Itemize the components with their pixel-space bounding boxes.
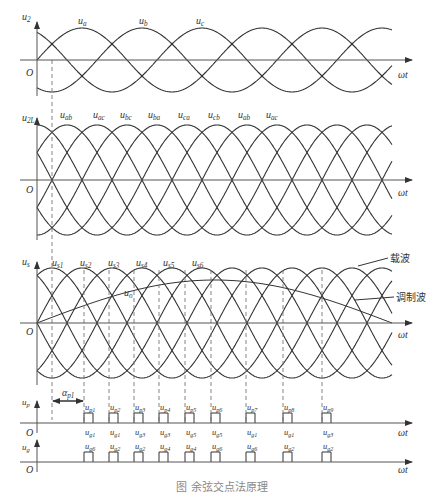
x-label-omega-t-5: ωt (398, 464, 408, 475)
pulse-up (109, 413, 118, 423)
gate-label-row2: ug2 (284, 441, 294, 452)
labels-layer: u2Oωtuaubucu2LOωtuabuacubcubaucaucbuabua… (22, 11, 426, 475)
gate-label-row1: ug1 (110, 427, 120, 438)
pulse-up (211, 413, 220, 423)
gate-label-row1: ug5 (212, 427, 222, 438)
pulse-label-p2: up2 (110, 402, 120, 413)
gate-label-row2: ug2 (135, 441, 145, 452)
pulse-up (84, 413, 93, 423)
gate-label-row1: ug3 (323, 427, 333, 438)
figure-caption: 图 余弦交点法原理 (0, 478, 444, 494)
origin-label-5: O (26, 464, 33, 475)
control-label-uo: uo (124, 287, 133, 300)
pulse-label-p7: up7 (247, 402, 258, 413)
gate-label-row1: ug1 (284, 427, 294, 438)
gate-label-row2: ug6 (85, 441, 96, 452)
pulse-up (185, 413, 194, 423)
pulse-ug (109, 452, 118, 462)
wave-label-c: uc (196, 15, 205, 28)
carrier-leader (358, 258, 388, 266)
pulse-ug (134, 452, 143, 462)
gate-label-row1: ug5 (186, 427, 196, 438)
line-wave-label-0: uab (60, 109, 73, 122)
x-label-omega-t-4: ωt (398, 427, 408, 438)
x-label-omega-t-3: ωt (398, 329, 408, 340)
pulse-ug (84, 452, 93, 462)
gate-label-row2: ug4 (160, 441, 170, 452)
carrier-annotation: 载波 (390, 252, 410, 264)
control-voltage-curve (37, 280, 392, 323)
line-wave-label-6: uab (238, 109, 251, 122)
pulse-label-p3: up3 (135, 402, 145, 413)
sync-wave-label-s5: us5 (163, 257, 175, 270)
pulse-ug (211, 452, 220, 462)
line-wave-label-4: uca (178, 109, 190, 122)
pulse-up (322, 413, 331, 423)
modulating-leader (355, 297, 394, 300)
pulse-label-p6: up6 (212, 402, 223, 413)
origin-label-4: O (26, 427, 33, 438)
gate-label-row1: ug1 (85, 427, 95, 438)
gate-label-row2: ug2 (110, 441, 120, 452)
pulse-ug (159, 452, 168, 462)
pulse-ug (283, 452, 292, 462)
line-wave-label-7: uac (266, 109, 279, 122)
pulse-up (246, 413, 255, 423)
line-wave-label-5: ucb (208, 109, 220, 122)
modulating-annotation: 调制波 (396, 291, 426, 303)
gate-label-row2: ug6 (212, 441, 223, 452)
pulse-ug (322, 452, 331, 462)
gate-label-row2: ug4 (186, 441, 196, 452)
pulse-up (134, 413, 143, 423)
curves-layer (37, 28, 394, 462)
pulse-ug (185, 452, 194, 462)
y-label-us: us (22, 256, 30, 269)
wave-label-b: ub (139, 15, 148, 28)
line-wave-label-3: uba (148, 109, 161, 122)
wave-label-a: ua (78, 15, 87, 28)
pulse-label-p9: up9 (323, 402, 333, 413)
y-label-u2: u2 (22, 11, 31, 24)
origin-label-2: O (26, 184, 33, 195)
pulse-ug (246, 452, 255, 462)
x-label-omega-t: ωt (398, 69, 408, 80)
y-label-up: up (22, 397, 31, 408)
gate-label-row2: ug6 (247, 441, 258, 452)
sync-wave-label-s6: us6 (192, 257, 204, 270)
line-wave-label-1: uac (93, 109, 106, 122)
pulse-label-p1: up1 (85, 402, 95, 413)
gate-label-row2: ug2 (323, 441, 333, 452)
pulse-up (283, 413, 292, 423)
pulse-label-p8: up8 (284, 402, 294, 413)
alpha-p1-label: αp1 (62, 387, 74, 400)
origin-label: O (26, 67, 33, 78)
pulse-label-p5: up5 (186, 402, 196, 413)
gate-label-row1: ug1 (247, 427, 257, 438)
gate-label-row1: ug3 (135, 427, 145, 438)
gate-label-row1: ug3 (160, 427, 170, 438)
origin-label-3: O (26, 326, 33, 337)
pulse-up (159, 413, 168, 423)
x-label-omega-t-2: ωt (398, 187, 408, 198)
y-label-ug: ug (22, 442, 31, 453)
pulse-label-p4: up4 (160, 402, 170, 413)
line-wave-label-2: ubc (120, 109, 133, 122)
y-label-u2L: u2L (22, 112, 35, 125)
